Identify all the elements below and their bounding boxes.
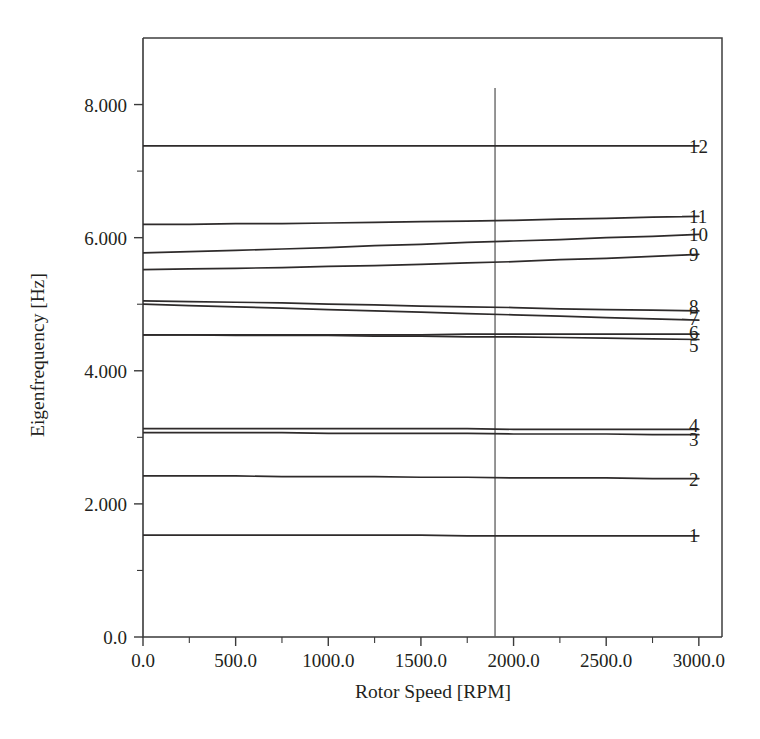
curve-series-group	[143, 146, 699, 536]
x-tick-label: 2000.0	[487, 650, 539, 671]
x-tick-label: 1500.0	[395, 650, 447, 671]
x-axis-tick-labels: 0.0500.01000.01500.02000.02500.03000.0	[131, 650, 725, 671]
x-tick-label: 2500.0	[580, 650, 632, 671]
curve-3	[143, 433, 699, 435]
curve-4	[143, 429, 699, 430]
x-axis-title: Rotor Speed [RPM]	[355, 681, 511, 702]
y-axis-title: Eigenfrequency [Hz]	[27, 273, 48, 437]
curve-10	[143, 234, 699, 253]
curve-6	[143, 334, 699, 335]
curve-label-12: 12	[689, 136, 708, 157]
curve-label-11: 11	[689, 206, 707, 227]
axis-ticks	[134, 105, 699, 646]
curve-labels-group: 123456789101112	[689, 136, 708, 546]
x-tick-label: 1000.0	[302, 650, 354, 671]
eigenfrequency-vs-rotor-speed-chart: 0.02.0004.0006.0008.000 0.0500.01000.015…	[0, 0, 760, 739]
curve-11	[143, 216, 699, 224]
curve-label-2: 2	[689, 469, 699, 490]
y-tick-label: 6.000	[84, 228, 127, 249]
y-tick-label: 4.000	[84, 361, 127, 382]
curve-label-9: 9	[689, 244, 699, 265]
y-tick-label: 8.000	[84, 95, 127, 116]
curve-label-1: 1	[689, 525, 699, 546]
y-tick-label: 2.000	[84, 494, 127, 515]
x-tick-label: 500.0	[214, 650, 257, 671]
curve-9	[143, 254, 699, 269]
plot-axes-left-bottom	[143, 38, 722, 637]
plot-frame-top-right	[143, 38, 722, 637]
plot-frame	[143, 38, 722, 637]
y-tick-label: 0.0	[103, 627, 127, 648]
x-tick-label: 3000.0	[673, 650, 725, 671]
curve-label-8: 8	[689, 296, 699, 317]
y-axis-tick-labels: 0.02.0004.0006.0008.000	[84, 95, 127, 648]
curve-label-4: 4	[689, 415, 699, 436]
campbell-diagram-figure: 0.02.0004.0006.0008.000 0.0500.01000.015…	[0, 0, 760, 739]
curve-2	[143, 476, 699, 479]
x-tick-label: 0.0	[131, 650, 155, 671]
curve-1	[143, 535, 699, 536]
curve-label-10: 10	[689, 224, 708, 245]
